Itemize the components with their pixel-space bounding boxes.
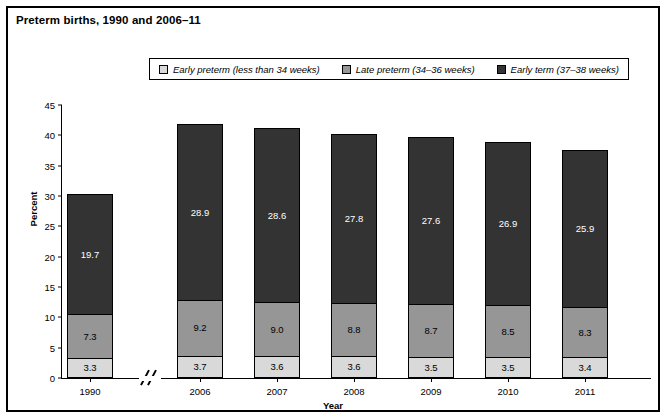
bar-value-label: 26.9 [499,219,518,229]
page-title: Preterm births, 1990 and 2006–11 [16,14,201,26]
x-axis-tick-mark [90,378,91,382]
bar-value-label: 28.6 [268,211,287,221]
y-axis-tick: 45 [35,100,62,111]
bar-value-label: 3.5 [424,363,437,373]
bar-group-2011: 25.98.33.4 [562,150,608,378]
x-axis-tick-label: 1990 [79,386,100,397]
bar-value-label: 3.4 [578,363,591,373]
legend-swatch-icon-early_preterm [159,65,168,74]
bar-segment: 26.9 [485,142,531,305]
x-axis-tick-mark [354,378,355,382]
bar-value-label: 19.7 [81,250,100,260]
x-axis-tick-mark [508,378,509,382]
bar-value-label: 3.6 [270,362,283,372]
y-axis-tick-label: 40 [35,130,55,141]
x-axis-tick-label: 2011 [575,386,595,397]
x-axis-tick-mark [277,378,278,382]
bar-value-label: 9.2 [193,323,206,333]
bar-segment: 28.6 [254,128,300,302]
y-axis-tick-mark [58,256,62,257]
y-axis-tick-mark [58,135,62,136]
bar-segment: 3.4 [562,357,608,378]
bar-group-2009: 27.68.73.5 [408,137,454,378]
legend-item-late_preterm: Late preterm (34–36 weeks) [342,64,475,75]
y-axis-tick-mark [58,226,62,227]
y-axis-tick: 10 [35,312,62,323]
y-axis-tick: 30 [35,191,62,202]
bar-group-2006: 28.99.23.7 [177,124,223,378]
bar-segment: 9.0 [254,302,300,357]
x-axis-tick-label: 2006 [189,386,210,397]
bar-segment: 8.7 [408,304,454,357]
bar-value-label: 8.8 [347,325,360,335]
y-axis-tick: 25 [35,221,62,232]
chart-figure: Preterm births, 1990 and 2006–11 Early p… [0,0,666,418]
y-axis-tick-label: 20 [35,251,55,262]
bar-value-label: 25.9 [576,224,595,234]
bar-value-label: 8.7 [424,326,437,336]
y-axis-tick: 20 [35,251,62,262]
y-axis-tick: 5 [35,342,62,353]
y-axis-tick-label: 0 [35,373,55,384]
y-axis-tick: 15 [35,282,62,293]
bar-segment: 3.6 [254,356,300,378]
legend-item-early_term: Early term (37–38 weeks) [497,64,619,75]
bar-series-container: 19.77.33.328.99.23.728.69.03.627.88.83.6… [62,105,650,378]
y-axis-tick-label: 25 [35,221,55,232]
y-axis-tick-mark [58,287,62,288]
bar-value-label: 7.3 [83,332,96,342]
x-axis-tick-label: 2010 [497,386,518,397]
bar-segment: 3.5 [485,357,531,378]
plot-area: 19.77.33.328.99.23.728.69.03.627.88.83.6… [62,105,650,378]
x-axis-tick-mark [585,378,586,382]
x-axis-tick-label: 2007 [266,386,287,397]
bar-segment: 27.6 [408,137,454,304]
bar-value-label: 9.0 [270,325,283,335]
bar-segment: 3.3 [67,358,113,378]
bar-value-label: 8.5 [501,327,514,337]
x-axis-tick-mark [200,378,201,382]
bar-value-label: 3.6 [347,362,360,372]
bar-group-2008: 27.88.83.6 [331,134,377,378]
bar-value-label: 3.7 [193,362,206,372]
legend-swatch-icon-early_term [497,65,506,74]
bar-group-1990: 19.77.33.3 [67,194,113,378]
x-axis-tick-label: 2009 [420,386,441,397]
y-axis-tick-mark [58,378,62,379]
bar-segment: 25.9 [562,150,608,307]
y-axis-tick-mark [58,165,62,166]
bar-segment: 7.3 [67,314,113,358]
y-axis-tick: 35 [35,160,62,171]
y-axis-tick: 40 [35,130,62,141]
bar-value-label: 27.8 [345,214,364,224]
legend-swatch-icon-late_preterm [342,65,351,74]
bar-segment: 8.5 [485,305,531,357]
legend-item-label: Early preterm (less than 34 weeks) [173,64,320,75]
bar-segment: 27.8 [331,134,377,303]
y-axis-tick-mark [58,317,62,318]
y-axis-tick-mark [58,105,62,106]
bar-group-2007: 28.69.03.6 [254,128,300,378]
legend-item-label: Late preterm (34–36 weeks) [356,64,475,75]
y-axis-tick-label: 35 [35,160,55,171]
x-axis-title: Year [0,400,666,411]
x-axis-tick-label: 2008 [343,386,364,397]
y-axis-tick-label: 15 [35,282,55,293]
bar-group-2010: 26.98.53.5 [485,142,531,378]
bar-segment: 19.7 [67,194,113,314]
x-axis-tick-mark [431,378,432,382]
bar-segment: 9.2 [177,300,223,356]
bar-segment: 3.5 [408,357,454,378]
bar-value-label: 3.3 [83,363,96,373]
y-axis-tick-mark [58,347,62,348]
bar-segment: 8.3 [562,307,608,357]
chart-legend: Early preterm (less than 34 weeks)Late p… [149,58,629,80]
bar-value-label: 8.3 [578,328,591,338]
y-axis-tick-label: 10 [35,312,55,323]
axis-break-mask [139,376,161,381]
y-axis-tick-mark [58,196,62,197]
legend-item-label: Early term (37–38 weeks) [511,64,619,75]
bar-segment: 28.9 [177,124,223,299]
bar-value-label: 3.5 [501,363,514,373]
bar-segment: 8.8 [331,303,377,356]
